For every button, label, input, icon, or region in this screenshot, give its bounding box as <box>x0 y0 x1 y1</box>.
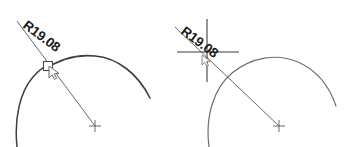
cad-illustration: R19.08 R19.08 <box>0 0 352 147</box>
dimension-text-right[interactable]: R19.08 <box>178 23 221 61</box>
figure-after: R19.08 <box>175 19 336 147</box>
preview-arc-left <box>44 56 150 98</box>
dimension-text-left[interactable]: R19.08 <box>20 17 63 55</box>
original-arc-left <box>16 65 49 147</box>
figure-before: R19.08 <box>16 17 150 147</box>
dragged-arc-right <box>208 57 336 147</box>
cad-drawing-canvas: R19.08 R19.08 <box>0 0 352 147</box>
arc-center-cross-left <box>89 120 101 132</box>
drag-cursor-left <box>49 66 59 79</box>
